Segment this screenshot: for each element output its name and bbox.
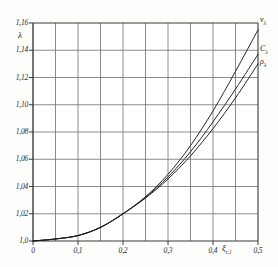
chart-figure: λ ξc,l 1,161,141,121,101,081,061,041,021… xyxy=(0,0,278,267)
y-tick-label: 1,16 xyxy=(2,18,28,27)
x-tick-label: 0 xyxy=(21,246,45,255)
curve-label-c-lambda: Cλ xyxy=(260,44,268,55)
y-axis-symbol: λ xyxy=(18,30,22,40)
curve-label-sub: λ xyxy=(265,49,268,55)
y-tick-label: 1,08 xyxy=(2,127,28,136)
curve-label-sub: λ xyxy=(264,19,267,25)
curve-label-sub: λ xyxy=(264,61,267,67)
curve-label-nu-lambda: νλ xyxy=(260,15,266,26)
x-tick-label: 0,5 xyxy=(246,246,270,255)
y-tick-label: 1,12 xyxy=(2,73,28,82)
y-tick-label: 1,04 xyxy=(2,182,28,191)
y-tick-label: 1,06 xyxy=(2,154,28,163)
y-tick-label: 1,02 xyxy=(2,209,28,218)
plot-canvas xyxy=(0,0,278,267)
y-tick-label: 1,14 xyxy=(2,45,28,54)
y-tick-label: 1,10 xyxy=(2,100,28,109)
x-tick-label: 0,4 xyxy=(201,246,225,255)
x-axis-symbol-sub: c,l xyxy=(226,249,231,255)
y-tick-label: 1,0 xyxy=(2,236,28,245)
x-tick-label: 0,2 xyxy=(111,246,135,255)
x-tick-label: 0,3 xyxy=(156,246,180,255)
curve-label-rho-lambda: ρλ xyxy=(260,57,266,68)
x-tick-label: 0,1 xyxy=(66,246,90,255)
